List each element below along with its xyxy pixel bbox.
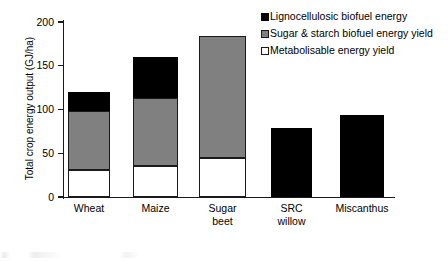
chart-figure: Total crop energy output (GJ/ha) 2001501… [0,0,448,261]
legend-item: Sugar & starch biofuel energy yield [261,23,447,40]
bar-segment-black [133,57,178,98]
y-tick-mark [58,21,63,22]
bar-miscanthus [340,115,384,197]
x-tick-label-line: SRC [252,202,332,215]
bar-segment-gray [133,98,178,165]
bar-segment-white [199,158,246,197]
bar-segment-gray [68,111,110,170]
legend-item: Lignocellulosic biofuel energy [261,6,447,23]
x-tick-label-line: beet [183,215,263,228]
bar-segment-gray [199,36,246,158]
x-tick-label: Miscanthus [322,202,402,215]
legend-label: Metabolisable energy yield [270,44,394,56]
x-tick-label: SRCwillow [252,202,332,228]
bar-maize [133,57,178,197]
y-tick-mark [58,65,63,66]
x-tick-label: Sugarbeet [183,202,263,228]
legend-swatch-gray [261,30,269,38]
legend-item: Metabolisable energy yield [261,40,447,57]
y-tick-mark [58,109,63,110]
x-tick-label-line: Sugar [183,202,263,215]
bar-wheat [68,92,110,197]
bar-sugar-beet [199,36,246,197]
bar-segment-white [68,170,110,197]
y-tick-label: 150 [20,60,54,71]
legend-swatch-black [261,13,269,21]
y-tick-label: 50 [20,148,54,159]
chart-legend: Lignocellulosic biofuel energySugar & st… [261,6,447,57]
x-tick-label-line: willow [252,215,332,228]
y-tick-mark [58,196,63,197]
bar-segment-black [68,92,110,111]
y-tick-mark [58,153,63,154]
bar-segment-black [271,128,312,197]
y-axis-line [63,20,64,199]
legend-label: Sugar & starch biofuel energy yield [270,27,433,39]
y-tick-label: 0 [20,192,54,203]
y-tick-label: 200 [20,17,54,28]
bar-src-willow [271,128,312,197]
legend-label: Lignocellulosic biofuel energy [270,10,407,22]
x-tick-label-line: Miscanthus [322,202,402,215]
bar-segment-black [340,115,384,197]
scan-artifact [0,252,210,258]
legend-swatch-white [261,47,269,55]
y-tick-label: 100 [20,104,54,115]
bar-segment-white [133,166,178,198]
